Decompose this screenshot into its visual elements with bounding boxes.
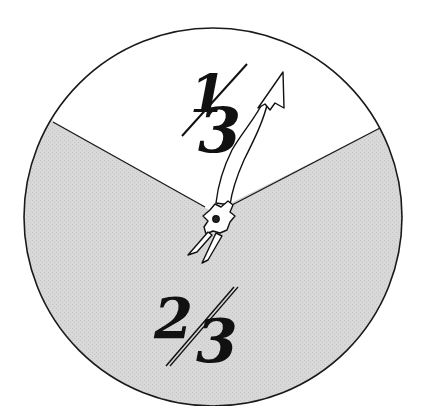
fraction-pie-chart: 1 3 2 3 <box>0 0 429 406</box>
spinner-pivot <box>213 216 219 222</box>
denominator-three-b: 3 <box>196 306 238 376</box>
